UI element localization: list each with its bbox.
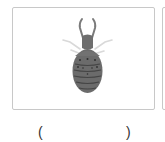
antlion-larva-image [13, 8, 156, 111]
image-frame [12, 7, 155, 110]
next-image-frame-edge [162, 7, 165, 110]
answer-field[interactable] [48, 124, 122, 142]
close-paren: ) [126, 124, 131, 140]
answer-blank: ( ) [36, 124, 136, 142]
open-paren: ( [38, 124, 43, 140]
